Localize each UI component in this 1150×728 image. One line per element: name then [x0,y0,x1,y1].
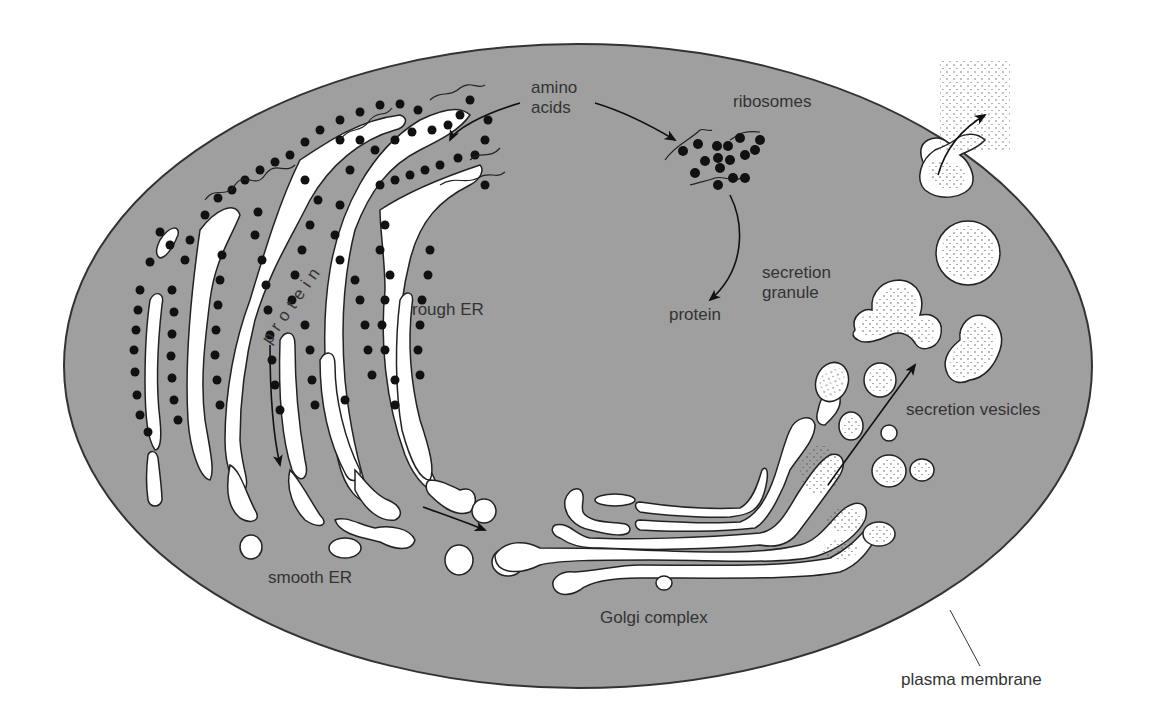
exocytosis-vesicle [920,60,1010,197]
label-secretion-vesicles: secretion vesicles [906,400,1040,420]
plasma-membrane-leader [950,610,980,666]
label-smooth-er: smooth ER [268,568,352,588]
label-acids: acids [531,98,577,118]
label-amino: amino [531,78,577,98]
label-granule: granule [762,283,831,303]
label-ribosomes: ribosomes [733,92,811,112]
label-golgi-complex: Golgi complex [600,608,708,628]
label-amino-acids: amino acids [531,78,577,118]
label-rough-er: rough ER [412,300,484,320]
label-plasma-membrane: plasma membrane [901,670,1042,690]
label-protein: protein [669,305,721,325]
label-secretion-granule: secretion granule [762,263,831,303]
cell-diagram: protein amino acids ribosomes protein ro… [0,0,1150,728]
label-secretion: secretion [762,263,831,283]
